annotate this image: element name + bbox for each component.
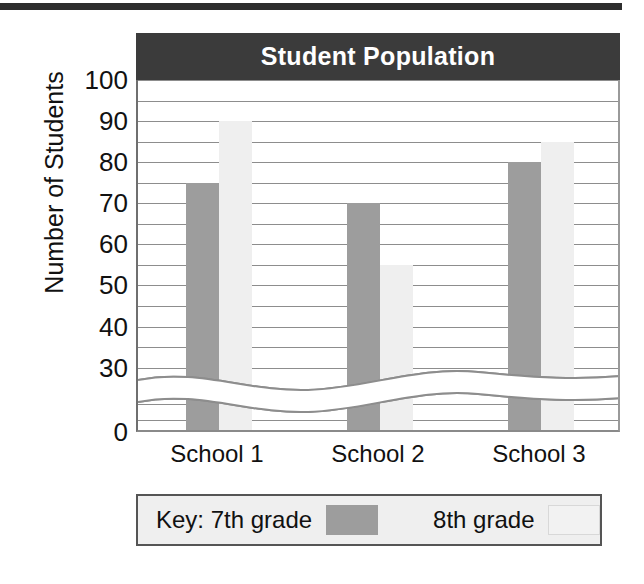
y-tick-50: 50 <box>8 272 128 298</box>
x-axis-tick-labels: School 1School 2School 3 <box>136 440 620 474</box>
y-tick-0: 0 <box>8 419 128 445</box>
x-tick-school-1: School 1 <box>170 440 263 468</box>
chart-title-band: Student Population <box>136 33 620 80</box>
gridline <box>138 431 618 432</box>
y-tick-30: 30 <box>8 355 128 381</box>
legend-swatch-7th-grade <box>326 505 378 535</box>
gridline <box>138 80 618 81</box>
y-axis-tick-labels: 100908070605040300 <box>0 80 128 432</box>
x-tick-school-2: School 2 <box>331 440 424 468</box>
bar-school-3-7th-grade <box>508 162 541 432</box>
chart-legend: Key: 7th grade 8th grade <box>136 494 602 546</box>
gridline <box>138 121 618 122</box>
x-tick-school-3: School 3 <box>492 440 585 468</box>
legend-label-7th: Key: 7th grade <box>156 506 312 534</box>
bar-school-2-8th-grade <box>380 265 413 432</box>
y-tick-80: 80 <box>8 149 128 175</box>
legend-swatch-8th-grade <box>548 505 600 535</box>
y-tick-40: 40 <box>8 314 128 340</box>
bar-school-1-8th-grade <box>219 121 252 432</box>
gridline <box>138 101 618 102</box>
bar-school-3-8th-grade <box>541 142 574 432</box>
bar-chart: Student Population Number of Students 10… <box>0 0 644 584</box>
y-tick-100: 100 <box>8 67 128 93</box>
y-tick-90: 90 <box>8 108 128 134</box>
y-tick-60: 60 <box>8 231 128 257</box>
bar-school-1-7th-grade <box>186 183 219 432</box>
y-tick-70: 70 <box>8 190 128 216</box>
legend-label-8th: 8th grade <box>433 506 534 534</box>
bar-school-2-7th-grade <box>347 203 380 432</box>
plot-area <box>136 80 620 432</box>
chart-title: Student Population <box>261 42 496 71</box>
